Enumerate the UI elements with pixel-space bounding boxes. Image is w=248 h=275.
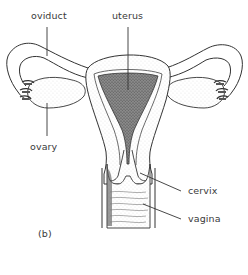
label-ovary: ovary — [30, 142, 57, 152]
label-oviduct: oviduct — [31, 11, 67, 21]
panel-label: (b) — [38, 229, 52, 239]
label-cervix: cervix — [188, 186, 217, 196]
right-ovary — [167, 77, 228, 108]
left-ovary — [20, 77, 85, 108]
label-vagina: vagina — [188, 214, 221, 224]
label-uterus: uterus — [112, 11, 143, 21]
